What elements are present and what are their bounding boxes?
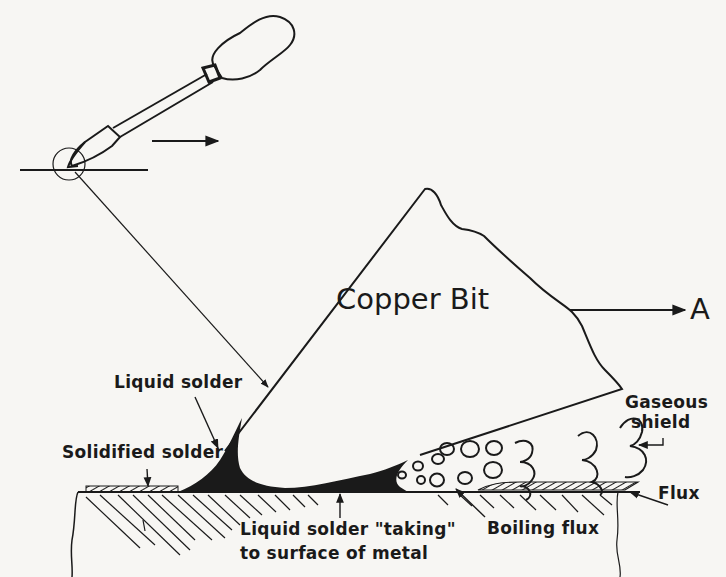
gaseous-shield-label-1: Gaseous bbox=[625, 394, 708, 411]
liquid-solder-taking-label-2: to surface of metal bbox=[240, 545, 428, 562]
liquid-solder-label: Liquid solder bbox=[114, 374, 242, 391]
zoom-leader-line bbox=[75, 172, 268, 387]
boiling-flux-leader bbox=[456, 489, 485, 517]
bubbles-icon bbox=[398, 441, 502, 487]
boiling-flux-label: Boiling flux bbox=[487, 520, 599, 537]
solidified-solder-leader bbox=[147, 469, 148, 486]
liquid-solder-taking-label-1: Liquid solder "taking" bbox=[240, 521, 456, 538]
solidified-solder-strip bbox=[86, 486, 178, 492]
gaseous-shield-leader bbox=[639, 438, 663, 445]
liquid-solder-leader bbox=[195, 397, 218, 448]
copper-bit-label: Copper Bit bbox=[336, 285, 489, 314]
direction-a-label: A bbox=[690, 295, 710, 324]
soldering-diagram: Copper Bit A Liquid solder Solidified so… bbox=[0, 0, 726, 577]
soldering-iron-icon bbox=[20, 16, 294, 180]
flux-strip bbox=[478, 482, 638, 490]
copper-bit-outline bbox=[225, 189, 622, 455]
gaseous-shield-label-2: shield bbox=[631, 414, 690, 431]
solidified-solder-label: Solidified solder bbox=[62, 444, 223, 461]
flux-label: Flux bbox=[658, 485, 700, 502]
